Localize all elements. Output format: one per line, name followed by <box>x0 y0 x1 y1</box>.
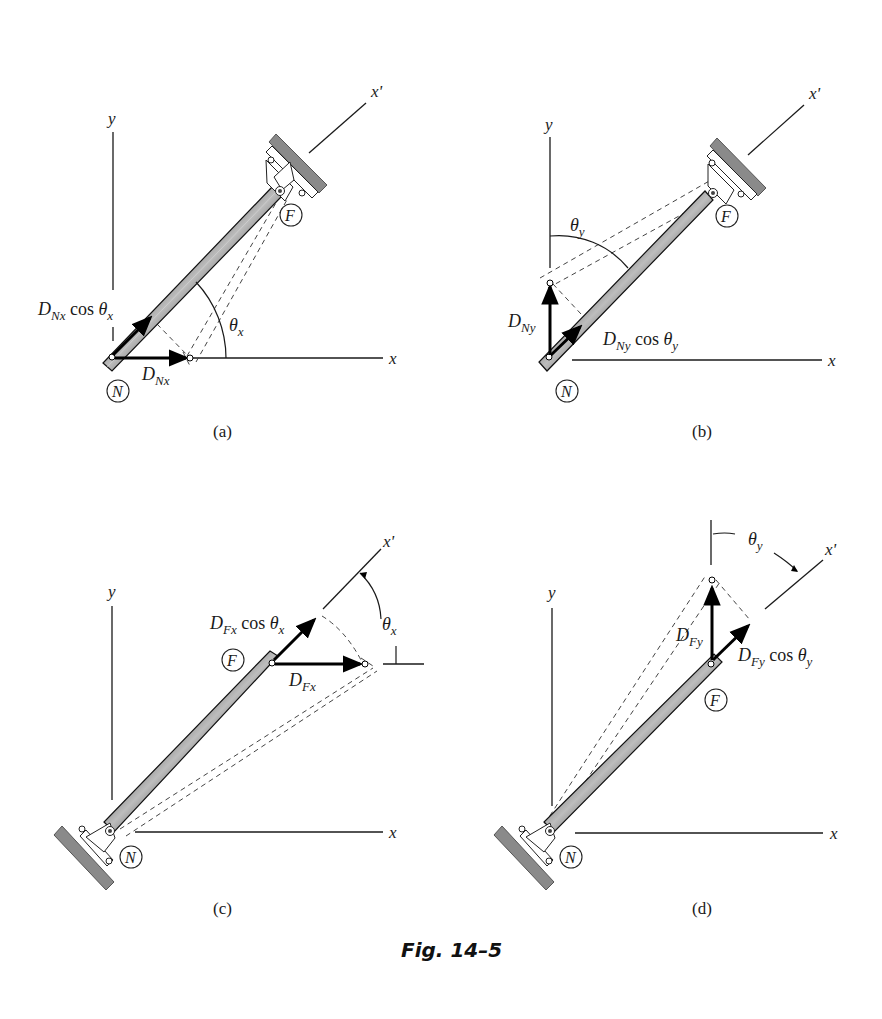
node-N-label: N <box>124 849 137 866</box>
angle-arc-theta-x <box>196 282 226 358</box>
vector-tip <box>187 355 193 361</box>
x-axis-label: x <box>829 824 838 843</box>
xprime-axis-label: x' <box>382 532 395 551</box>
xprime-axis-label: x' <box>808 84 821 103</box>
xprime-axis-label: x' <box>824 540 837 559</box>
figure-caption: Fig. 14–5 <box>401 938 502 962</box>
y-axis-label: y <box>546 583 556 602</box>
pin-F <box>708 661 714 667</box>
angle-label: θy <box>570 215 585 239</box>
node-F-label: F <box>709 692 720 709</box>
angle-arc-theta-x <box>360 573 381 619</box>
wall-support-N <box>54 823 115 890</box>
angle-arc-theta-y-upper <box>713 533 735 534</box>
vector-tip <box>709 577 715 583</box>
construction-line <box>126 671 377 836</box>
construction-line <box>716 580 750 620</box>
construction-line <box>540 176 718 278</box>
panel-label-a: (a) <box>213 422 232 441</box>
node-F-label: F <box>226 652 237 669</box>
vector-tip <box>547 280 553 286</box>
label-D-Fx: DFx <box>288 670 316 694</box>
wall-support-N <box>494 823 555 890</box>
label-D-Ny: DNy <box>507 311 536 335</box>
xprime-axis <box>309 103 366 153</box>
wall-support-F <box>707 138 766 204</box>
y-axis-label: y <box>106 582 116 601</box>
angle-label: θy <box>748 529 763 553</box>
vector-tip <box>362 661 368 667</box>
panel-b: y x x' θy DNy DNy cos θy <box>507 84 836 441</box>
angle-label: θx <box>229 315 244 339</box>
member-bar <box>103 186 282 371</box>
x-axis-label: x <box>827 351 836 370</box>
angle-label: θx <box>382 614 397 638</box>
xprime-axis-label: x' <box>370 82 383 101</box>
panel-a: y x x' <box>37 82 397 441</box>
construction-line <box>553 284 581 314</box>
node-F-label: F <box>720 208 731 225</box>
panel-label-c: (c) <box>213 899 232 918</box>
member-bar <box>544 654 722 832</box>
angle-arc-theta-y <box>550 236 628 268</box>
member-bar <box>104 651 278 832</box>
label-D-Ny-cos-theta-y: DNy cos θy <box>602 329 678 353</box>
construction-arc <box>322 616 361 660</box>
y-axis-label: y <box>106 109 116 128</box>
panel-label-d: (d) <box>692 899 712 918</box>
label-D-Fy: DFy <box>675 625 703 649</box>
label-D-Fy-cos-theta-y: DFy cos θy <box>737 645 813 669</box>
x-axis-label: x <box>388 349 397 368</box>
angle-arrowhead <box>360 572 367 579</box>
figure-14-5: y x x' <box>0 0 882 1019</box>
node-F-label: F <box>284 207 295 224</box>
node-N-label: N <box>564 849 577 866</box>
panel-d: y x x' θy DFy <box>494 520 838 918</box>
wall-support-F <box>266 134 327 201</box>
node-N-label: N <box>560 383 573 400</box>
xprime-axis <box>323 549 381 609</box>
pin-F <box>269 660 275 666</box>
panel-label-b: (b) <box>692 422 712 441</box>
y-axis-label: y <box>543 115 553 134</box>
node-N-label: N <box>111 383 124 400</box>
panel-c: y x x' θx <box>54 532 424 918</box>
label-D-Nx-cos-theta-x: DNx cos θx <box>37 299 113 323</box>
label-D-Fx-cos-theta-x: DFx cos θx <box>209 613 285 637</box>
label-D-Nx: DNx <box>141 364 170 388</box>
construction-line <box>120 668 373 829</box>
x-axis-label: x <box>388 823 397 842</box>
construction-line <box>157 324 190 358</box>
xprime-axis <box>748 105 804 155</box>
